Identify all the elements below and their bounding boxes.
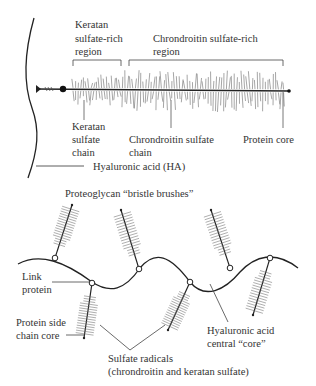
chain-strand-up	[160, 71, 161, 88]
chain-strand-up	[81, 80, 82, 88]
chain-strand-up	[182, 79, 183, 88]
chain-strand-down	[215, 92, 216, 111]
chain-strand-down	[242, 92, 243, 108]
chain-strand-down	[109, 91, 110, 105]
chain-strand-up	[200, 78, 201, 89]
chain-strand-down	[199, 92, 200, 100]
chain-strand-down	[203, 92, 204, 99]
chain-strand-down	[221, 92, 222, 105]
chain-strand-up	[246, 76, 247, 89]
chain-strand-down	[280, 92, 281, 109]
chain-strand-down	[147, 91, 148, 101]
bristle-brush	[52, 204, 79, 261]
chain-tip-dot	[210, 209, 212, 211]
sulfate-radical-bristle	[179, 292, 190, 297]
protein-core-label: Protein core	[243, 134, 294, 145]
sulfate-radical-bristle	[178, 294, 189, 299]
keratan-region-bracket	[73, 60, 121, 66]
chain-strand-down	[89, 91, 90, 101]
chain-strand-down	[225, 92, 226, 107]
chain-strand-up	[195, 73, 196, 88]
protein-side-chain-core	[211, 210, 229, 265]
chain-strand-down	[158, 91, 159, 99]
sulfate-radical-bristle	[205, 214, 222, 220]
chain-strand-up	[229, 77, 230, 89]
chain-strand-up	[98, 77, 99, 88]
sulfate-radical-bristle	[206, 219, 223, 225]
chain-strand-down	[236, 92, 237, 111]
chain-strand-down	[145, 91, 146, 103]
chain-strand-down	[174, 92, 175, 110]
sulfate-radical-bristle	[206, 217, 223, 223]
sulfate-radical-bristle	[210, 230, 227, 236]
protein-core-axis	[36, 89, 289, 91]
chain-strand-up	[118, 80, 119, 89]
keratan-chain-label: Keratan sulfate chain	[72, 121, 108, 158]
chain-strand-up	[164, 80, 165, 88]
chain-strand-down	[255, 92, 256, 109]
chain-strand-up	[197, 74, 198, 89]
chain-strand-down	[112, 91, 113, 100]
chain-strand-down	[73, 91, 74, 101]
sulfate-radical-bristle	[209, 227, 226, 233]
chain-strand-down	[169, 92, 170, 101]
hyaluronic-acid-label: Hyaluronic acid (HA)	[93, 161, 186, 173]
chain-strand-up	[129, 76, 130, 88]
chain-strand-down	[127, 91, 128, 104]
bristle-brushes-label: Proteoglycan “bristle brushes”	[65, 188, 194, 199]
chain-strand-down	[271, 92, 272, 99]
chain-strand-up	[111, 76, 112, 88]
chain-strand-down	[161, 91, 162, 101]
chain-strand-up	[109, 83, 110, 88]
sulfate-radical-bristle	[177, 296, 188, 301]
chain-strand-up	[221, 77, 222, 88]
chain-strand-up	[91, 83, 92, 88]
chain-strand-up	[176, 76, 177, 88]
hyaluronic-acid-strand	[26, 18, 37, 178]
link-protein-node	[187, 279, 193, 285]
protein-core-end-dot	[287, 89, 291, 93]
chain-strand-up	[128, 76, 129, 88]
chain-strand-down	[130, 91, 131, 104]
chain-strand-up	[116, 78, 117, 88]
chain-strand-up	[115, 78, 116, 88]
chain-strand-down	[284, 92, 285, 106]
proteoglycan-diagram: Keratan sulfate-rich region Chrondroitin…	[0, 0, 316, 386]
chain-strand-up	[202, 81, 203, 88]
chain-strand-up	[88, 78, 89, 88]
chain-strand-down	[163, 92, 164, 108]
chain-strand-up	[103, 79, 104, 88]
chain-strand-down	[247, 92, 248, 103]
link-protein-node	[52, 255, 58, 261]
sulfate-radical-bristle	[214, 243, 231, 249]
chain-strand-down	[133, 91, 134, 108]
chain-strand-up	[132, 79, 133, 88]
chain-strand-down	[90, 91, 91, 105]
chain-strand-down	[99, 91, 100, 98]
chain-strand-up	[173, 72, 174, 88]
chain-strand-up	[277, 80, 278, 89]
chain-strand-up	[248, 71, 249, 89]
link-protein-label: Link protein	[22, 271, 52, 295]
sulfate-radicals-label: Sulfate radicals (chrondroitin and kerat…	[108, 353, 249, 378]
chain-strand-up	[226, 71, 227, 89]
chain-strand-up	[216, 76, 217, 88]
chain-strand-up	[72, 79, 73, 88]
chain-strand-up	[138, 70, 139, 88]
chain-tip-dot	[83, 337, 85, 339]
sulfate-radicals-leader	[100, 325, 165, 350]
chain-strand-down	[137, 91, 138, 110]
chain-tip-dot	[167, 329, 169, 331]
chain-strand-up	[135, 79, 136, 89]
sulfate-radical-bristle	[211, 232, 228, 238]
top-panel: Keratan sulfate-rich region Chrondroitin…	[26, 18, 295, 178]
bristle-brush	[161, 279, 192, 331]
link-ticks	[45, 87, 53, 91]
sulfate-radical-bristle	[212, 235, 229, 241]
chain-strand-down	[104, 91, 105, 99]
chain-strand-up	[168, 72, 169, 88]
link-protein-node	[136, 266, 142, 272]
chain-tip-dot	[120, 209, 122, 211]
chondroitin-chain-label: Chrondroitin sulfate chain	[129, 134, 217, 158]
hyaluronic-core-label: Hyaluronic acid central “core”	[207, 325, 277, 349]
